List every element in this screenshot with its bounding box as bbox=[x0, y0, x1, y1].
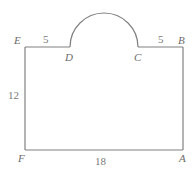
geometry-figure: E D C B A F 5 5 12 18 bbox=[0, 0, 196, 172]
vertex-label-B: B bbox=[178, 35, 185, 46]
vertex-label-A: A bbox=[179, 153, 186, 164]
vertex-label-D: D bbox=[65, 52, 73, 63]
vertex-label-C: C bbox=[134, 52, 141, 63]
semicircular-arc-DC bbox=[70, 13, 138, 47]
measurement-label-FA: 18 bbox=[95, 156, 106, 167]
measurement-label-EF: 12 bbox=[8, 90, 19, 101]
vertex-label-E: E bbox=[14, 35, 21, 46]
figure-canvas bbox=[0, 0, 196, 172]
vertex-label-F: F bbox=[18, 153, 25, 164]
measurement-label-ED: 5 bbox=[43, 34, 49, 45]
measurement-label-CB: 5 bbox=[158, 34, 164, 45]
